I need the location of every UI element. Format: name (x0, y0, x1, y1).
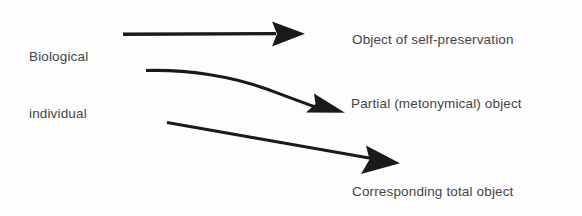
arrow-shaft-2 (146, 70, 317, 107)
arrow-head-3 (361, 146, 400, 175)
arrow-shaft-1 (123, 34, 276, 35)
arrow-to-total-object (167, 123, 400, 175)
arrow-head-1 (272, 22, 305, 47)
diagram-canvas: Biological individual Object of self-pre… (0, 0, 582, 216)
target-label-partial-object: Partial (metonymical) object (351, 95, 522, 112)
target-label-self-preservation: Object of self-preservation (352, 31, 514, 48)
arrow-to-self-preservation (123, 22, 305, 47)
arrow-to-partial-object (146, 70, 345, 112)
target-label-total-object: Corresponding total object (352, 183, 514, 200)
arrow-shaft-3 (167, 123, 372, 159)
arrow-head-2 (306, 94, 345, 113)
